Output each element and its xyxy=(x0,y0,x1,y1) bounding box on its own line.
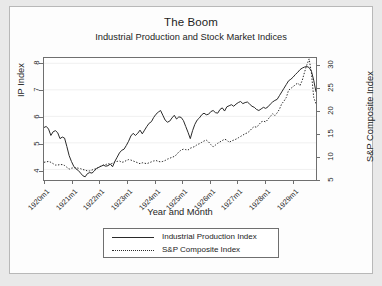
plot-area: 4567851015202530 xyxy=(43,57,317,181)
y-axis-right-tick-label: 15 xyxy=(326,127,335,141)
y-axis-right-tick-label: 10 xyxy=(326,150,335,164)
x-axis-tickmark xyxy=(127,180,128,184)
y-axis-right-tick-label: 25 xyxy=(326,80,335,94)
x-axis-tickmark xyxy=(182,180,183,184)
legend-label: S&P Composite Index xyxy=(162,245,240,254)
x-axis-tickmark xyxy=(99,180,100,184)
y-axis-left-tick-label: 6 xyxy=(32,110,41,124)
y-axis-right-tickmark xyxy=(316,157,320,158)
x-axis-tickmark xyxy=(155,180,156,184)
chart-legend: Industrial Production Index S&P Composit… xyxy=(103,228,279,258)
y-axis-right-tickmark xyxy=(316,111,320,112)
y-axis-right-tick-label: 30 xyxy=(326,57,335,71)
series-line-2 xyxy=(44,59,316,171)
series-canvas xyxy=(44,58,316,180)
y-axis-right-title: S&P Composite Index xyxy=(365,71,375,162)
y-axis-left-title: IP Index xyxy=(16,63,26,97)
x-axis-tickmark xyxy=(210,180,211,184)
legend-item-industrial-production: Industrial Production Index xyxy=(104,231,278,245)
y-axis-right-tick-label: 20 xyxy=(326,104,335,118)
y-axis-left-tick-label: 8 xyxy=(32,56,41,70)
legend-line-sample-solid xyxy=(112,237,154,240)
y-axis-right-tickmark xyxy=(316,134,320,135)
y-axis-left-tick-label: 5 xyxy=(32,137,41,151)
x-axis-tickmark xyxy=(72,180,73,184)
chart-subtitle: Industrial Production and Stock Market I… xyxy=(0,32,382,42)
x-axis-tickmark xyxy=(265,180,266,184)
legend-item-sp-composite: S&P Composite Index xyxy=(104,244,278,258)
y-axis-left-tick-label: 4 xyxy=(32,164,41,178)
x-axis-tickmark xyxy=(44,180,45,184)
series-line-1 xyxy=(44,66,316,176)
chart-title: The Boom xyxy=(0,16,382,28)
y-axis-right-tickmark xyxy=(316,88,320,89)
chart-screenshot: The Boom Industrial Production and Stock… xyxy=(0,0,382,286)
y-axis-left-tick-label: 7 xyxy=(32,83,41,97)
y-axis-right-tick-label: 5 xyxy=(326,173,335,187)
x-axis-tickmark xyxy=(293,180,294,184)
y-axis-right-tickmark xyxy=(316,180,320,181)
y-axis-right-tickmark xyxy=(316,65,320,66)
x-axis-tickmark xyxy=(237,180,238,184)
legend-label: Industrial Production Index xyxy=(162,232,257,241)
legend-line-sample-dotted xyxy=(112,250,154,253)
